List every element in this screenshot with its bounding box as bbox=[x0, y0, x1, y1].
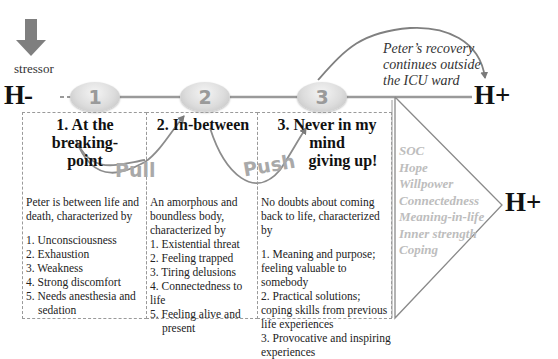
phase-3-list: 1. Meaning and purpose; feeling valuable… bbox=[261, 247, 391, 359]
phase-node-2: 2 bbox=[180, 82, 230, 112]
stressor-arrow-icon bbox=[16, 19, 46, 56]
phase-2-title: 2. In-between bbox=[148, 116, 258, 134]
phase-2-list: 1. Existential threat 2. Feeling trapped… bbox=[150, 237, 258, 335]
phase-node-1: 1 bbox=[70, 82, 120, 112]
stressor-label: stressor bbox=[14, 61, 54, 77]
phase-1-description: Peter is between life and death, charact… bbox=[26, 195, 146, 317]
pull-label: Pull bbox=[115, 159, 155, 181]
phase-node-3: 3 bbox=[297, 82, 347, 112]
phase-3-description: No doubts about coming back to life, cha… bbox=[261, 195, 391, 359]
axis-start-label: H- bbox=[4, 80, 32, 111]
resources-list: SOC Hope Willpower Connectedness Meaning… bbox=[399, 143, 484, 259]
resources-end-label: H+ bbox=[505, 187, 541, 218]
phase-2-description: An amorphous and boundless body, charact… bbox=[150, 195, 258, 335]
recovery-note: Peter’s recovery continues outside the I… bbox=[383, 41, 481, 89]
phase-1-list: 1. Unconsciousness 2. Exhaustion 3. Weak… bbox=[26, 233, 146, 317]
